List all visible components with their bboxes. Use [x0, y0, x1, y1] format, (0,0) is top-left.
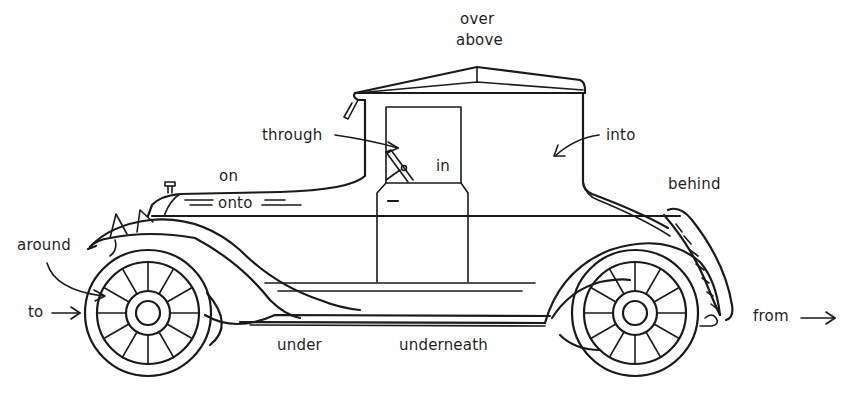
- to-arrow: [52, 307, 80, 319]
- car-door: [377, 107, 468, 282]
- from-arrow: [801, 312, 835, 324]
- around-arrow: [47, 263, 105, 301]
- preposition-car-diagram: over above through in into on onto behin…: [0, 0, 855, 400]
- car-hood: [148, 165, 365, 216]
- car-cab: [365, 93, 670, 236]
- label-on: on: [219, 169, 238, 184]
- into-arrow: [554, 135, 599, 156]
- rear-wheel: [572, 250, 698, 376]
- running-board: [205, 283, 550, 326]
- label-above: above: [456, 33, 503, 48]
- label-over: over: [460, 12, 494, 27]
- front-wheel: [85, 250, 211, 376]
- label-behind: behind: [668, 177, 721, 192]
- car-roof: [344, 67, 585, 119]
- label-from: from: [753, 309, 789, 324]
- label-to: to: [28, 305, 43, 320]
- label-through: through: [262, 128, 322, 143]
- label-around: around: [17, 238, 71, 253]
- label-underneath: underneath: [399, 338, 488, 353]
- label-under: under: [277, 338, 322, 353]
- label-into: into: [606, 128, 636, 143]
- label-onto: onto: [218, 196, 253, 211]
- label-in: in: [436, 159, 450, 174]
